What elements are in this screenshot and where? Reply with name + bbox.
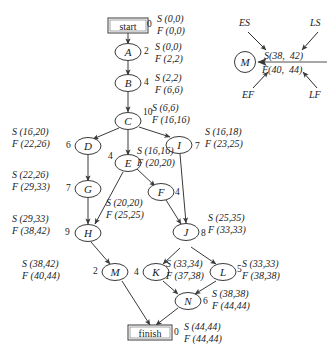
- node-D-label: D: [83, 140, 92, 152]
- times-K-f: F (37,38): [166, 270, 204, 282]
- node-start-label: start: [119, 21, 136, 32]
- edge-K-N: [163, 281, 178, 294]
- times-N-s: S (38,38): [212, 288, 250, 300]
- network-diagram-canvas: start finish A B C D: [0, 0, 334, 355]
- times-J: S (25,35) F (33,33): [208, 212, 246, 236]
- times-E-f: F (20,20): [137, 157, 175, 169]
- times-D: S (16,20) F (22,26): [12, 126, 50, 150]
- edge-E-F: [137, 169, 155, 186]
- duration-start: 0: [147, 19, 152, 29]
- node-B-label: B: [125, 77, 132, 89]
- duration-N: 6: [203, 296, 208, 306]
- times-G-s: S (22,26): [12, 169, 50, 181]
- times-B: S (2,2) F (6,6): [155, 72, 183, 96]
- times-M-s: S (38,42): [22, 258, 60, 270]
- times-H: S (29,33) F (38,42): [12, 213, 50, 237]
- node-H-label: H: [83, 227, 93, 239]
- legend-s-line: S(38, 42): [264, 50, 303, 61]
- legend-node-label: M: [239, 56, 250, 68]
- edge-H-M: [91, 242, 110, 264]
- node-E-label: E: [124, 157, 132, 169]
- times-M: S (38,42) F (40,44): [22, 258, 60, 282]
- times-K-s: S (33,34): [166, 258, 204, 270]
- duration-A: 2: [144, 46, 149, 56]
- times-G-f: F (29,33): [12, 181, 50, 193]
- edge-C-D: [93, 128, 119, 139]
- edge-I-J: [180, 154, 186, 223]
- duration-F: 4: [175, 187, 180, 197]
- legend-pointer-ls: [302, 32, 318, 50]
- legend-label-ef: EF: [242, 89, 254, 100]
- duration-D: 6: [66, 140, 71, 150]
- legend-label-ls: LS: [310, 17, 321, 28]
- legend-pointer-es: [248, 32, 266, 50]
- duration-M: 2: [93, 266, 98, 276]
- times-H-f: F (38,42): [12, 225, 50, 237]
- node-A-label: A: [124, 46, 132, 58]
- times-A-f: F (2,2): [155, 53, 183, 65]
- duration-G: 7: [66, 183, 71, 193]
- legend-label-es: ES: [239, 17, 250, 28]
- duration-I: 7: [195, 141, 200, 151]
- node-C-label: C: [124, 115, 132, 127]
- times-C-s: S (6,6): [152, 102, 190, 114]
- times-L: S (33,33) F (38,38): [242, 258, 280, 282]
- times-E-s: S (16,16): [137, 145, 175, 157]
- times-start-s: S (0,0): [157, 13, 185, 25]
- edge-C-I: [139, 127, 170, 137]
- duration-H: 9: [65, 227, 70, 237]
- times-D-s: S (16,20): [12, 126, 50, 138]
- node-finish[interactable]: finish: [128, 325, 172, 340]
- times-M-f: F (40,44): [22, 270, 60, 282]
- times-finish: S (44,44) F (44,44): [184, 321, 222, 345]
- times-A: S (0,0) F (2,2): [155, 41, 183, 65]
- duration-B: 4: [144, 77, 149, 87]
- node-L-label: L: [219, 266, 226, 278]
- legend-f-line: F(40, 44): [262, 64, 302, 75]
- times-finish-f: F (44,44): [184, 333, 222, 345]
- node-F-label: F: [157, 186, 165, 198]
- times-C-f: F (16,16): [152, 114, 190, 126]
- times-C: S (6,6) F (16,16): [152, 102, 190, 126]
- times-G: S (22,26) F (29,33): [12, 169, 50, 193]
- edge-M-finish: [122, 281, 150, 325]
- times-D-f: F (22,26): [12, 138, 50, 150]
- edge-F-J: [166, 200, 181, 224]
- times-J-s: S (25,35): [208, 212, 246, 224]
- node-start[interactable]: start: [108, 18, 148, 33]
- times-finish-s: S (44,44): [184, 321, 222, 333]
- node-G-label: G: [84, 183, 92, 195]
- duration-finish: 0: [174, 327, 179, 337]
- times-J-f: F (33,33): [208, 224, 246, 236]
- times-I-s: S (16,18): [205, 126, 243, 138]
- times-I: S (16,18) F (23,25): [205, 126, 243, 150]
- duration-K: 4: [134, 267, 139, 277]
- node-M-label: M: [109, 266, 120, 278]
- times-A-s: S (0,0): [155, 41, 183, 53]
- times-F: S (20,20) F (25,25): [106, 197, 144, 221]
- times-start: S (0,0) F (0,0): [157, 13, 185, 37]
- times-start-f: F (0,0): [157, 25, 185, 37]
- duration-J: 8: [201, 228, 206, 238]
- times-B-f: F (6,6): [155, 84, 183, 96]
- edge-N-finish: [156, 308, 178, 325]
- times-F-f: F (25,25): [106, 209, 144, 221]
- duration-E: 4: [108, 151, 113, 161]
- times-H-s: S (29,33): [12, 213, 50, 225]
- times-N-f: F (44,44): [212, 300, 250, 312]
- times-F-s: S (20,20): [106, 197, 144, 209]
- legend-pointer-lf: [303, 72, 317, 88]
- times-I-f: F (23,25): [205, 138, 243, 150]
- times-E: S (16,16) F (20,20): [137, 145, 175, 169]
- times-N: S (38,38) F (44,44): [212, 288, 250, 312]
- times-K: S (33,34) F (37,38): [166, 258, 204, 282]
- node-finish-label: finish: [139, 328, 162, 339]
- times-L-f: F (38,38): [242, 270, 280, 282]
- legend-label-lf: LF: [309, 89, 321, 100]
- times-B-s: S (2,2): [155, 72, 183, 84]
- node-K-label: K: [151, 266, 160, 278]
- node-N-label: N: [183, 295, 192, 307]
- times-L-s: S (33,33): [242, 258, 280, 270]
